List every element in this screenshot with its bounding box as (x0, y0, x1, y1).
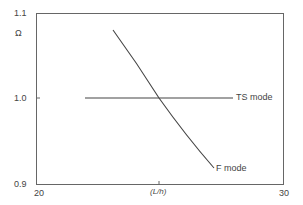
x-axis-label: (L/h) (150, 187, 166, 196)
y-tick-label-1-0: 1.0 (14, 93, 27, 103)
y-tick-label-0-9: 0.9 (14, 179, 27, 189)
f-mode-line (113, 30, 214, 168)
f-mode-label: F mode (216, 163, 247, 173)
x-tick-label-20: 20 (34, 188, 44, 198)
y-tick-label-1-1: 1.1 (14, 8, 27, 18)
y-axis-label: Ω (15, 28, 22, 38)
ts-mode-label: TS mode (236, 92, 273, 102)
x-tick-label-30: 30 (279, 188, 289, 198)
plot-area (0, 0, 303, 205)
